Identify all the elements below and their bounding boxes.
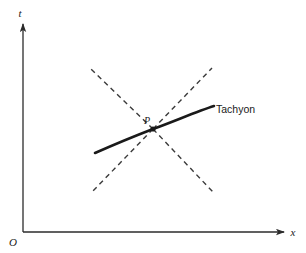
light-cone-ray-lower-left <box>92 129 153 192</box>
event-point-label: P <box>143 115 150 126</box>
spacetime-diagram-figure: t x O P Tachyon <box>0 0 306 253</box>
diagram-canvas: t x O P Tachyon <box>0 0 306 253</box>
y-axis-label: t <box>18 7 22 19</box>
light-cone-ray-upper-right <box>153 68 212 129</box>
light-cone-ray-lower-right <box>153 129 213 192</box>
origin-label: O <box>9 236 17 248</box>
x-axis-label: x <box>290 226 296 238</box>
tachyon-label: Tachyon <box>216 103 255 115</box>
event-point-marker <box>150 126 155 131</box>
